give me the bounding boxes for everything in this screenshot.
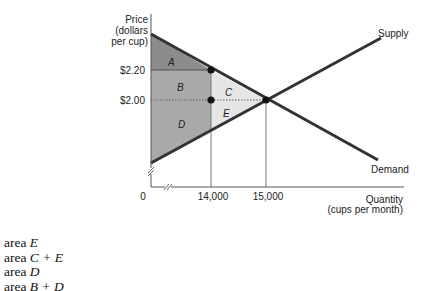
area-c-label: C bbox=[225, 87, 233, 98]
area-c bbox=[211, 70, 266, 100]
x-tick-14000: 14,000 bbox=[198, 191, 229, 202]
y-axis-title-price: Price bbox=[125, 14, 148, 25]
area-a-label: A bbox=[167, 57, 175, 68]
y-axis-title-per-cup: per cup) bbox=[111, 36, 148, 47]
area-d bbox=[151, 100, 211, 163]
area-e-label: E bbox=[223, 108, 230, 119]
y-tick-220: $2.20 bbox=[120, 65, 145, 76]
x-tick-15000: 15,000 bbox=[253, 191, 284, 202]
x-axis-title-cups: (cups per month) bbox=[327, 204, 403, 215]
point-14000-220 bbox=[207, 66, 214, 73]
x-axis-break-icon bbox=[164, 184, 172, 190]
answer-option-2[interactable]: area C + E bbox=[4, 251, 64, 266]
demand-label: Demand bbox=[371, 164, 409, 175]
answer-option-4[interactable]: area B + D bbox=[4, 280, 64, 291]
point-14000-200 bbox=[207, 96, 214, 103]
y-tick-200: $2.00 bbox=[120, 95, 145, 106]
answer-option-3[interactable]: area D bbox=[4, 265, 64, 280]
y-axis-title-dollars: (dollars bbox=[115, 25, 148, 36]
supply-demand-diagram: Price (dollars per cup) $2.20 $2.00 0 14… bbox=[0, 0, 443, 291]
supply-label: Supply bbox=[378, 28, 409, 39]
answer-option-1[interactable]: area E bbox=[4, 236, 64, 251]
answer-options: area E area C + E area D area B + D bbox=[4, 236, 64, 291]
area-d-label: D bbox=[178, 119, 185, 130]
area-b-label: B bbox=[177, 82, 184, 93]
x-tick-0: 0 bbox=[140, 191, 146, 202]
equilibrium-point bbox=[262, 96, 269, 103]
